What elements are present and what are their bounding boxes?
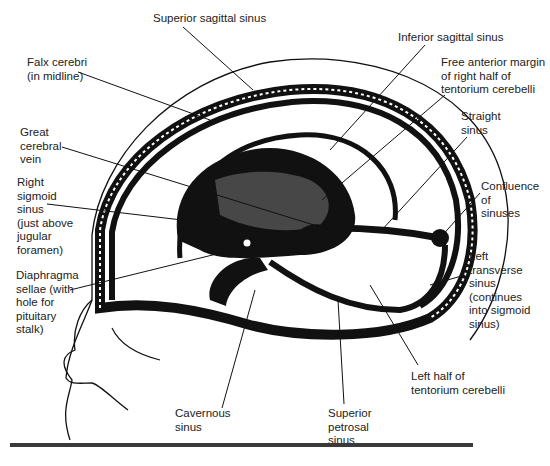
label-right-sigmoid-sinus: Right sigmoid sinus (just above jugular …: [17, 176, 73, 257]
ear-outline: [112, 328, 160, 360]
label-diaphragma-sellae: Diaphragma sellae (with hole for pituita…: [16, 269, 79, 337]
label-superior-petrosal-sinus: Superior petrosal sinus: [328, 407, 371, 448]
cavernous-sinus: [209, 258, 268, 306]
label-cavernous-sinus: Cavernous sinus: [175, 407, 231, 434]
label-left-half-tentorium: Left half of tentorium cerebelli: [411, 370, 505, 397]
label-great-cerebral-vein: Great cerebral vein: [20, 126, 62, 167]
bottom-rule: [10, 443, 473, 447]
label-superior-sagittal-sinus: Superior sagittal sinus: [153, 12, 266, 26]
label-straight-sinus: Straight sinus: [461, 110, 501, 137]
label-left-transverse-sinus: Left transverse sinus (continues into si…: [469, 250, 530, 331]
label-confluence-of-sinuses: Confluence of sinuses: [481, 180, 539, 221]
label-free-anterior-margin: Free anterior margin of right half of te…: [441, 56, 545, 97]
label-falx-cerebri: Falx cerebri (in midline): [27, 56, 87, 83]
label-inferior-sagittal-sinus: Inferior sagittal sinus: [398, 31, 503, 45]
